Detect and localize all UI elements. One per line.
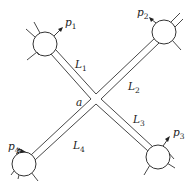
label-p3: p3: [173, 126, 185, 141]
node-2: [152, 13, 183, 50]
label-junction-a: a: [76, 96, 82, 108]
label-l4: L4: [72, 139, 85, 154]
pressure-arrow-p2: [149, 17, 156, 23]
label-l3: L3: [132, 113, 145, 128]
label-p2: p2: [137, 6, 149, 21]
label-p4: p4: [8, 140, 20, 155]
node-4: [11, 152, 38, 181]
label-l1: L1: [74, 58, 87, 73]
node-3: [144, 145, 175, 175]
pipe-l1: [51, 50, 96, 99]
pressure-arrow-p1: [54, 27, 63, 36]
label-l2: L2: [127, 80, 140, 95]
pipe-l4: [31, 99, 96, 160]
pipe-network-diagram: p1 p2 p3 p4 L1 L2 L3 L4 a: [0, 0, 193, 189]
node-1: [26, 22, 57, 60]
pressure-arrow-p3: [163, 136, 170, 146]
label-p1: p1: [65, 16, 77, 31]
